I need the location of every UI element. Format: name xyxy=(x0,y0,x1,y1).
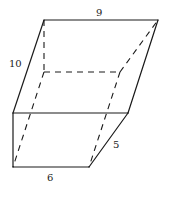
hidden-left-long-edge xyxy=(13,72,44,167)
label-bottom-edge: 6 xyxy=(47,172,53,183)
label-depth-edge: 5 xyxy=(113,139,119,150)
right-slant-edge xyxy=(128,20,158,113)
label-top-edge: 9 xyxy=(96,7,102,18)
label-slant-edge: 10 xyxy=(9,58,22,69)
hidden-right-long-edge xyxy=(89,72,120,167)
prism-diagram: 9 10 6 5 xyxy=(0,0,173,198)
bottom-right-slant-edge xyxy=(89,113,128,167)
hidden-right-slant-edge xyxy=(120,20,158,72)
